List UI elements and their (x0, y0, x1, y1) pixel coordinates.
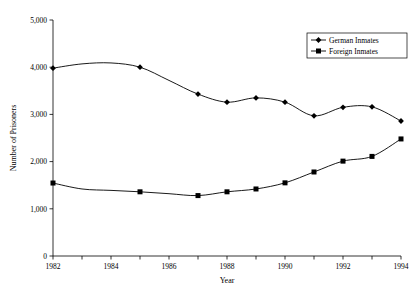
data-point-marker (196, 193, 201, 198)
data-point-marker (399, 136, 404, 141)
data-point-marker (254, 186, 259, 191)
chart-container: 01,0002,0003,0004,0005,000 Number of Pri… (0, 0, 419, 297)
line-chart: 01,0002,0003,0004,0005,000 Number of Pri… (0, 0, 419, 297)
x-tick-label: 1982 (46, 262, 61, 271)
data-point-marker (51, 181, 56, 186)
legend-label-1: German Inmates (329, 36, 379, 45)
legend-label-2: Foreign Inmates (329, 47, 378, 56)
y-tick-label: 1,000 (30, 205, 47, 214)
data-point-marker (138, 189, 143, 194)
x-tick-label: 1986 (162, 262, 177, 271)
y-tick-label: 3,000 (30, 110, 47, 119)
data-point-marker (283, 180, 288, 185)
y-tick-label: 4,000 (30, 63, 47, 72)
x-axis-title: Year (220, 276, 235, 285)
x-tick-label: 1994 (394, 262, 409, 271)
y-tick-label: 0 (43, 252, 47, 261)
data-point-marker (225, 189, 230, 194)
x-tick-label: 1990 (278, 262, 293, 271)
x-tick-label: 1984 (104, 262, 119, 271)
legend-marker-square (316, 49, 321, 54)
y-axis-title: Number of Prisoners (9, 105, 18, 172)
chart-legend: German InmatesForeign Inmates (307, 33, 407, 58)
x-tick-label: 1988 (220, 262, 235, 271)
data-point-marker (370, 154, 375, 159)
data-point-marker (341, 159, 346, 164)
data-point-marker (312, 169, 317, 174)
y-tick-label: 2,000 (30, 157, 47, 166)
y-tick-label: 5,000 (30, 16, 47, 25)
x-tick-label: 1992 (336, 262, 351, 271)
